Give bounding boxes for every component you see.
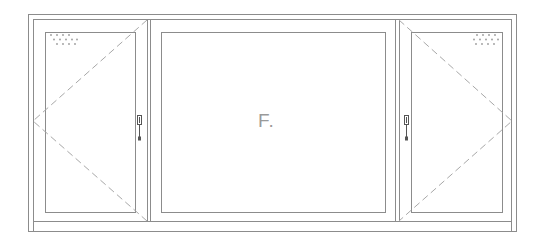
left-vent-icon xyxy=(50,34,78,45)
left-handle-icon xyxy=(138,116,142,141)
right-handle-icon xyxy=(405,116,409,141)
right-sash-opening-indicator xyxy=(399,20,512,221)
right-vent-icon xyxy=(473,34,499,45)
right-sash-glass xyxy=(412,33,503,213)
fixed-pane-label: F. xyxy=(258,110,275,132)
left-sash-opening-indicator xyxy=(33,20,147,221)
left-sash-glass xyxy=(46,33,136,213)
